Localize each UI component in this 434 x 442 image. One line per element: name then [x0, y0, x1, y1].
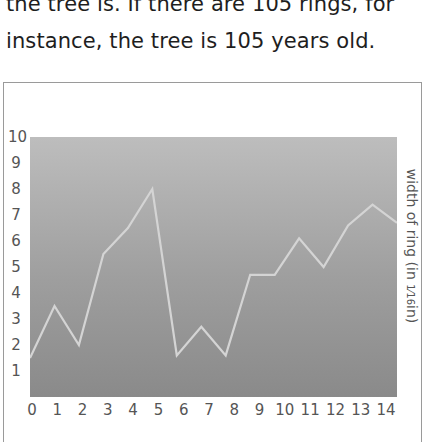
- body-text: the tree is. If there are 105 rings, for…: [6, 0, 434, 60]
- y-tick-label: 8: [8, 181, 24, 197]
- x-tick-label: 4: [121, 402, 145, 418]
- body-text-line-1: the tree is. If there are 105 rings, for: [6, 0, 434, 23]
- x-tick-label: 13: [349, 402, 373, 418]
- x-tick-label: 8: [222, 402, 246, 418]
- x-tick-label: 2: [71, 402, 95, 418]
- y-tick-label: 3: [8, 311, 24, 327]
- x-tick-label: 14: [374, 402, 398, 418]
- y-axis-label-prefix: width of ring (in: [404, 169, 420, 285]
- y-axis-label-fraction: 1⁄16: [405, 284, 416, 305]
- plot-area: [30, 137, 397, 397]
- x-tick-label: 3: [96, 402, 120, 418]
- y-tick-label: 2: [8, 337, 24, 353]
- x-tick-label: 1: [45, 402, 69, 418]
- series-line-0: [30, 189, 397, 358]
- x-tick-label: 6: [172, 402, 196, 418]
- line-series: [30, 137, 397, 397]
- y-tick-label: 7: [8, 207, 24, 223]
- y-tick-label: 6: [8, 233, 24, 249]
- y-axis-label: width of ring (in 1⁄16in): [404, 169, 420, 324]
- x-tick-label: 10: [273, 402, 297, 418]
- y-tick-label: 5: [8, 259, 24, 275]
- x-tick-label: 11: [298, 402, 322, 418]
- x-tick-label: 0: [20, 402, 44, 418]
- y-tick-label: 10: [8, 129, 24, 145]
- x-tick-label: 5: [146, 402, 170, 418]
- y-tick-label: 9: [8, 155, 24, 171]
- x-tick-label: 9: [248, 402, 272, 418]
- y-tick-label: 4: [8, 285, 24, 301]
- y-axis-label-suffix: in): [404, 305, 420, 323]
- y-tick-label: 1: [8, 363, 24, 379]
- x-tick-label: 7: [197, 402, 221, 418]
- x-tick-label: 12: [323, 402, 347, 418]
- body-text-line-2: instance, the tree is 105 years old.: [6, 23, 434, 60]
